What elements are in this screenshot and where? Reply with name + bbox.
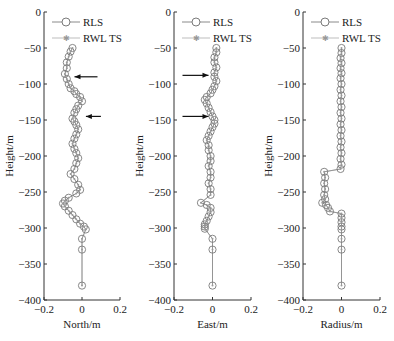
rwl-ts-marker: [70, 173, 72, 175]
rwl-ts-marker: [206, 96, 208, 98]
rwl-ts-marker: [75, 162, 77, 164]
rwl-ts-marker: [324, 188, 326, 190]
east-panel: 0−50−100−150−200−250−300−350−400−0.200.2…: [133, 6, 258, 330]
x-tick-label: 0.2: [113, 303, 127, 315]
rwl-ts-marker: [200, 202, 202, 204]
rwl-ts-marker: [81, 100, 83, 102]
rwl-ts-marker: [70, 87, 72, 89]
rwl-ts-marker: [73, 178, 75, 180]
arrow-head-icon: [86, 114, 92, 119]
rwl-ts-marker: [215, 51, 217, 53]
rwl-ts-marker: [70, 51, 72, 53]
rwl-ts-marker: [64, 205, 66, 207]
y-axis-title: Height/m: [3, 135, 15, 177]
rwl-ts-marker: [340, 146, 342, 148]
rwl-ts-marker: [64, 200, 66, 202]
rwl-ts-marker: [206, 102, 208, 104]
rwl-ts-marker: [341, 213, 343, 215]
rwl-ts-marker: [210, 155, 212, 157]
rwl-ts-marker: [341, 72, 343, 74]
rwl-ts-marker: [204, 226, 206, 228]
rwl-ts-marker: [77, 128, 79, 130]
rwl-ts-marker: [340, 135, 342, 137]
rwl-ts-marker: [340, 123, 342, 125]
rwl-ts-marker: [68, 56, 70, 58]
rwl-ts-marker: [208, 135, 210, 137]
y-tick-label: −350: [18, 258, 41, 270]
rwl-ts-marker: [340, 77, 342, 79]
rwl-ts-marker: [73, 120, 75, 122]
rwl-ts-marker: [213, 76, 215, 78]
rwl-ts-marker: [75, 152, 77, 154]
rwl-ts-marker: [325, 204, 327, 206]
rwl-ts-marker: [340, 168, 342, 170]
y-axis-title: Height/m: [133, 135, 145, 177]
rwl-ts-marker: [210, 160, 212, 162]
rwl-ts-marker: [340, 57, 342, 59]
rwl-ts-marker: [321, 202, 323, 204]
y-tick-label: −250: [148, 186, 171, 198]
x-tick-label: 0: [210, 303, 216, 315]
y-tick-label: 0: [166, 6, 172, 18]
y-tick-label: −300: [148, 222, 171, 234]
legend-rls-label: RLS: [83, 16, 103, 28]
rwl-ts-marker: [323, 194, 325, 196]
rwl-ts-marker: [341, 129, 343, 131]
x-tick-label: 0: [79, 303, 85, 315]
rwl-ts-marker: [341, 221, 343, 223]
y-tick-label: −150: [148, 114, 171, 126]
rwl-ts-marker: [341, 228, 343, 230]
x-axis-title: Radius/m: [320, 318, 363, 330]
rwl-ts-marker: [72, 214, 74, 216]
y-tick-label: −200: [277, 150, 300, 162]
rwl-ts-marker: [323, 171, 325, 173]
rwl-ts-marker: [341, 238, 343, 240]
rwl-ts-marker: [340, 100, 342, 102]
rwl-ts-marker: [85, 228, 87, 230]
x-tick-label: −0.2: [293, 303, 313, 315]
rwl-ts-marker: [204, 223, 206, 225]
rwl-ts-marker: [79, 189, 81, 191]
rwl-ts-marker: [341, 152, 343, 154]
rwl-ts-marker: [66, 78, 68, 80]
rwl-ts-marker: [68, 210, 70, 212]
rwl-ts-marker: [210, 177, 212, 179]
rwl-ts-marker: [66, 61, 68, 63]
rwl-ts-marker: [62, 203, 64, 205]
y-tick-label: 0: [36, 6, 42, 18]
legend-rwl-ts-star-icon: ✱: [63, 34, 70, 43]
rwl-ts-marker: [215, 47, 217, 49]
rwl-ts-marker: [77, 105, 79, 107]
chart-figure: 0−50−100−150−200−250−300−350−400−0.200.2…: [0, 0, 394, 341]
rwl-ts-marker: [81, 238, 83, 240]
rwl-ts-marker: [208, 182, 210, 184]
rwl-ts-marker: [213, 123, 215, 125]
x-tick-label: 0.2: [244, 303, 258, 315]
rwl-ts-marker: [341, 285, 343, 287]
rwl-ts-marker: [206, 220, 208, 222]
rwl-ts-marker: [341, 62, 343, 64]
legend-rwl-ts-label: RWL TS: [83, 32, 122, 44]
y-axis-title: Height/m: [262, 135, 274, 177]
rwl-ts-marker: [75, 108, 77, 110]
radius-panel: 0−50−100−150−200−250−300−350−400−0.200.2…: [262, 6, 387, 330]
rwl-ts-marker: [324, 198, 326, 200]
arrow-head-icon: [203, 73, 209, 78]
y-tick-label: −100: [277, 78, 300, 90]
rwl-ts-marker: [210, 188, 212, 190]
rwl-ts-marker: [73, 148, 75, 150]
rwl-ts-marker: [210, 207, 212, 209]
y-tick-label: −350: [148, 258, 171, 270]
rwl-ts-marker: [213, 56, 215, 58]
rwl-ts-marker: [212, 115, 214, 117]
y-tick-label: −100: [18, 78, 41, 90]
x-tick-label: 0: [339, 303, 345, 315]
rwl-ts-marker: [206, 204, 208, 206]
rwl-ts-marker: [341, 249, 343, 251]
y-tick-label: −100: [148, 78, 171, 90]
y-tick-label: −50: [154, 42, 172, 54]
rwl-ts-marker: [66, 67, 68, 69]
y-tick-label: −150: [18, 114, 41, 126]
rwl-ts-marker: [64, 73, 66, 75]
rwl-ts-marker: [212, 238, 214, 240]
